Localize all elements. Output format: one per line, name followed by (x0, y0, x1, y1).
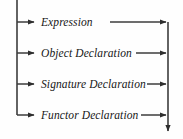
branch-label-signature-declaration: Signature Declaration (41, 78, 146, 90)
branch-label-functor-declaration: Functor Declaration (41, 109, 138, 121)
branch-label-object-declaration: Object Declaration (41, 47, 132, 59)
railroad-diagram: Expression Object Declaration Signature … (0, 0, 183, 139)
branch-label-expression: Expression (41, 16, 93, 28)
